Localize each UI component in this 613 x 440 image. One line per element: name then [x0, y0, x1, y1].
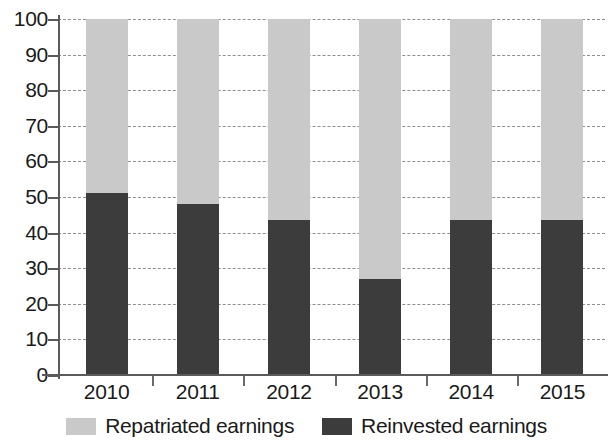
gridline [58, 197, 605, 198]
gridline [58, 19, 605, 20]
light-gray-swatch-icon [66, 418, 96, 435]
bar-segment-repatriated [86, 19, 128, 193]
x-axis-line [42, 374, 608, 376]
legend-label: Repatriated earnings [105, 415, 294, 437]
y-axis-tick-mark [48, 55, 59, 57]
y-axis-tick-mark [48, 161, 59, 163]
bar-stack [268, 19, 310, 375]
gridline [58, 268, 605, 269]
legend-label: Reinvested earnings [361, 415, 547, 437]
bar-segment-repatriated [268, 19, 310, 220]
gridline [58, 339, 605, 340]
y-axis-tick-label: 100 [2, 8, 48, 29]
bar-segment-repatriated [177, 19, 219, 204]
stacked-bar-chart: 0102030405060708090100 Repatriated earni… [0, 0, 613, 440]
bar-stack [450, 19, 492, 375]
gridline [58, 90, 605, 91]
y-axis-tick-label: 90 [2, 44, 48, 65]
bar-segment-reinvested [541, 220, 583, 375]
dark-gray-swatch-icon [322, 418, 352, 435]
gridline [58, 126, 605, 127]
gridline [58, 233, 605, 234]
gridline [58, 304, 605, 305]
bar-stack [177, 19, 219, 375]
gridline [58, 55, 605, 56]
x-axis-tick-mark [152, 376, 154, 386]
y-axis-tick-mark [48, 197, 59, 199]
bar-segment-reinvested [268, 220, 310, 375]
y-axis-tick-mark [48, 19, 59, 21]
y-axis-tick-label: 50 [2, 186, 48, 207]
x-axis-tick-mark [243, 376, 245, 386]
y-axis-tick-label: 80 [2, 79, 48, 100]
bar-stack [541, 19, 583, 375]
x-axis-tick-label: 2015 [507, 380, 613, 404]
bar-segment-reinvested [450, 220, 492, 375]
y-axis-tick-mark [48, 126, 59, 128]
bar-segment-repatriated [359, 19, 401, 279]
bar-segment-repatriated [541, 19, 583, 220]
y-axis-tick-label: 40 [2, 222, 48, 243]
bar-segment-reinvested [359, 279, 401, 375]
bar-segment-reinvested [177, 204, 219, 375]
y-axis-tick-label: 10 [2, 328, 48, 349]
plot-area [58, 19, 605, 375]
y-axis-tick-label: 20 [2, 293, 48, 314]
y-axis-tick-mark [48, 90, 59, 92]
y-axis-tick-mark [48, 304, 59, 306]
y-axis-tick-label: 30 [2, 257, 48, 278]
x-axis-tick-mark [426, 376, 428, 386]
gridline [58, 161, 605, 162]
x-axis-tick-mark [335, 376, 337, 386]
bar-segment-reinvested [86, 193, 128, 375]
y-axis-tick-labels: 0102030405060708090100 [0, 0, 48, 440]
legend-item[interactable]: Repatriated earnings [66, 415, 294, 437]
y-axis-tick-label: 70 [2, 115, 48, 136]
legend-item[interactable]: Reinvested earnings [322, 415, 547, 437]
origin-tick-mark [48, 375, 59, 377]
bar-stack [86, 19, 128, 375]
chart-legend: Repatriated earningsReinvested earnings [0, 412, 613, 440]
y-axis-tick-label: 60 [2, 150, 48, 171]
y-axis-tick-mark [48, 339, 59, 341]
x-axis-tick-mark [517, 376, 519, 386]
y-axis-tick-mark [48, 233, 59, 235]
bar-segment-repatriated [450, 19, 492, 220]
y-axis-tick-mark [48, 268, 59, 270]
bar-stack [359, 19, 401, 375]
